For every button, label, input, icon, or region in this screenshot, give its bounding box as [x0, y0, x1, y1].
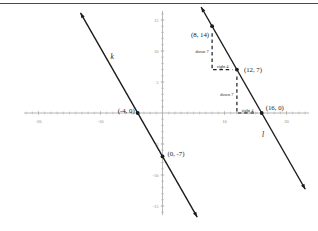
- y-tick-label: 10: [154, 49, 159, 54]
- annotations-group: [212, 33, 257, 113]
- x-tick-label: 20: [284, 119, 289, 124]
- point-dot: [136, 111, 140, 115]
- annotation-label: right 4: [217, 64, 229, 69]
- annotation-label: down 7: [196, 49, 210, 54]
- point-dot: [210, 24, 214, 28]
- point-label: (12, 7): [244, 66, 262, 74]
- line-label-k: k: [111, 52, 115, 61]
- point-dot: [260, 111, 264, 115]
- annotation-label: down 7: [220, 92, 234, 97]
- y-tick-label: -15: [153, 204, 160, 209]
- axes-group: [24, 11, 309, 215]
- arrowhead: [193, 212, 197, 217]
- arrowhead: [80, 13, 84, 18]
- line-l: [201, 7, 305, 189]
- arrowhead: [301, 184, 305, 189]
- line-label-l: l: [262, 130, 264, 139]
- coordinate-plane: -20-10102015105-5-10-15down 7right 4down…: [0, 0, 318, 231]
- point-label: (8, 14): [191, 31, 209, 39]
- arrowhead: [201, 7, 205, 12]
- figure-canvas: -20-10102015105-5-10-15down 7right 4down…: [0, 0, 318, 231]
- y-tick-label: -5: [155, 142, 159, 147]
- point-label: (-4, 0): [118, 107, 135, 115]
- point-label: (16, 0): [266, 104, 284, 112]
- y-tick-label: 15: [154, 18, 159, 23]
- y-tick-label: 5: [156, 80, 159, 85]
- point-dot: [161, 155, 165, 159]
- point-dot: [235, 68, 239, 72]
- x-tick-label: 10: [222, 119, 227, 124]
- annotation-label: right 4: [242, 108, 254, 113]
- y-tick-label: -10: [153, 173, 160, 178]
- x-tick-label: -20: [36, 119, 43, 124]
- line-k: [80, 13, 197, 217]
- lines-group: [80, 7, 305, 217]
- points-group: [136, 24, 264, 158]
- point-label: (0, -7): [168, 150, 185, 158]
- x-tick-label: -10: [98, 119, 105, 124]
